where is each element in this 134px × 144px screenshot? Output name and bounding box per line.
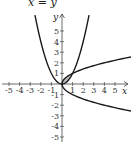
x-axis-label: x [122,86,127,96]
x-tick-label: -2 [37,86,45,95]
y-tick-label: 4 [54,38,59,47]
x-tick-label: 2 [81,86,86,95]
chart: x = y -5-4-3-2-112345-5-4-3-2-112345 x y [0,0,134,144]
y-axis-label: y [52,12,59,22]
y-tick-label: -2 [51,101,59,110]
x-tick-label: 5 [112,86,117,95]
x-tick-label: -4 [16,86,24,95]
y-tick-label: -1 [51,91,59,100]
x-tick-label: -3 [26,86,34,95]
y-tick-label: -4 [51,122,59,131]
y-tick-label: 2 [54,59,59,68]
y-tick-label: -5 [51,133,59,142]
y-tick-label: 3 [54,48,59,57]
x-tick-label: 4 [102,86,107,95]
x-tick-label: -5 [5,86,13,95]
curves [35,15,131,111]
y-tick-label: -3 [51,112,59,121]
x-tick-label: 3 [91,86,96,95]
chart-title: x = y [28,0,57,9]
y-tick-label: 1 [54,69,59,78]
y-tick-label: 5 [54,27,59,36]
